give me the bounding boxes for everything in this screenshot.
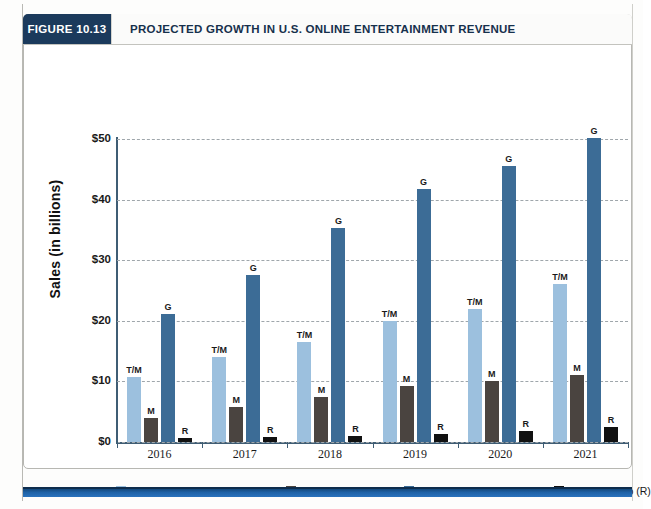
bar: G (161, 314, 175, 442)
x-tick-label: 2019 (373, 447, 458, 462)
y-tick-label: $20 (71, 314, 111, 326)
bar: M (229, 407, 243, 442)
bar: R (348, 436, 362, 442)
x-tick-label: 2017 (202, 447, 287, 462)
bar: R (519, 431, 533, 442)
bar-series-label: M (488, 370, 496, 379)
y-axis-tick-labels: $0$10$20$30$40$50 (65, 45, 111, 469)
bar-group: T/MMGR (458, 139, 543, 442)
y-tick-label: $50 (71, 132, 111, 144)
footer-rule (23, 489, 632, 497)
bar: R (434, 434, 448, 442)
bar-series-label: G (250, 264, 257, 273)
bar: G (587, 138, 601, 442)
bar-series-label: R (608, 416, 615, 425)
bar-series-label: T/M (382, 310, 398, 319)
plot-area: T/MMGRT/MMGRT/MMGRT/MMGRT/MMGRT/MMGR (117, 139, 628, 442)
bar: T/M (212, 357, 226, 442)
y-tick-label: $30 (71, 253, 111, 265)
bar-series-label: R (182, 427, 189, 436)
bar: T/M (553, 284, 567, 442)
bar-series-label: M (403, 375, 411, 384)
bar: T/M (297, 342, 311, 442)
figure-title: PROJECTED GROWTH IN U.S. ONLINE ENTERTAI… (130, 23, 516, 35)
bar-series-label: M (318, 386, 326, 395)
x-tick-label: 2016 (117, 447, 202, 462)
bar: G (331, 228, 345, 442)
bar-series-label: T/M (552, 273, 568, 282)
bar: T/M (127, 377, 141, 442)
bar-series-label: G (335, 217, 342, 226)
bar-series-label: R (522, 420, 529, 429)
x-tick-label: 2020 (458, 447, 543, 462)
bar: G (246, 275, 260, 442)
bar-series-label: G (420, 178, 427, 187)
bar: M (485, 381, 499, 442)
bar-series-label: G (165, 303, 172, 312)
figure-title-bar: PROJECTED GROWTH IN U.S. ONLINE ENTERTAI… (111, 14, 632, 44)
bar-series-label: G (505, 155, 512, 164)
bar: R (178, 438, 192, 442)
bar: M (570, 375, 584, 442)
bar-series-label: T/M (126, 366, 142, 375)
bar: M (314, 397, 328, 442)
bar-series-label: R (267, 426, 274, 435)
chart-canvas: Sales (in billions) $0$10$20$30$40$50 T/… (23, 45, 632, 469)
bar-series-label: T/M (297, 331, 313, 340)
bar-series-label: T/M (467, 298, 483, 307)
bar-group: T/MMGR (543, 139, 628, 442)
page-right-edge (632, 4, 633, 501)
x-tick-label: 2018 (287, 447, 372, 462)
bar-series-label: R (437, 423, 444, 432)
bar-group: T/MMGR (202, 139, 287, 442)
bar: G (502, 166, 516, 442)
bar-series-label: M (232, 396, 240, 405)
bar: R (263, 437, 277, 442)
bar: T/M (383, 321, 397, 442)
bar-series-label: G (590, 127, 597, 136)
figure-number-badge: FIGURE 10.13 (23, 14, 111, 44)
bar-series-label: M (147, 407, 155, 416)
bar-series-label: T/M (211, 346, 227, 355)
bar: M (144, 418, 158, 442)
y-tick-label: $40 (71, 193, 111, 205)
bar-series-label: M (573, 364, 581, 373)
figure-header: FIGURE 10.13 PROJECTED GROWTH IN U.S. ON… (23, 14, 632, 44)
bar-series-label: R (352, 425, 359, 434)
bar: T/M (468, 309, 482, 442)
y-tick-label: $10 (71, 374, 111, 386)
bar-group: T/MMGR (117, 139, 202, 442)
bar: G (417, 189, 431, 442)
y-tick-label: $0 (71, 435, 111, 447)
bar: M (400, 386, 414, 442)
x-tick-label: 2021 (543, 447, 628, 462)
bar: R (604, 427, 618, 442)
x-tick-mark (628, 442, 629, 448)
bar-group: T/MMGR (373, 139, 458, 442)
bar-group: T/MMGR (287, 139, 372, 442)
y-axis-title: Sales (in billions) (47, 149, 63, 329)
figure-number-label: FIGURE 10.13 (27, 23, 106, 35)
